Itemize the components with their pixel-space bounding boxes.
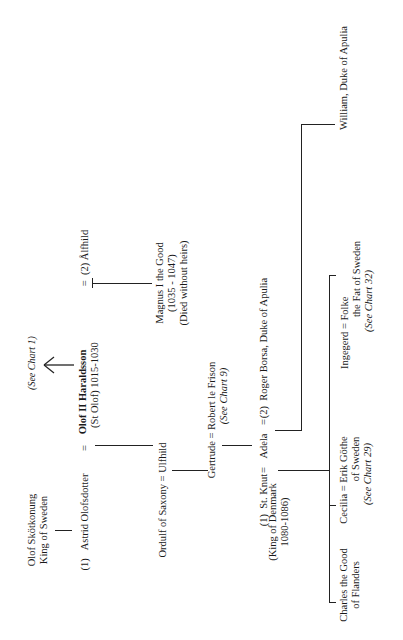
- ingegerd-line1: Ingegerd = Folke: [339, 241, 351, 369]
- st-knut-details: (King of Denmark 1080-1086): [267, 483, 291, 561]
- person-roger-borsa: (2) Roger Borsa, Duke of Apulia: [258, 278, 270, 418]
- person-astrid: (1) Astrid Olofsdotter: [79, 474, 91, 571]
- st-knut-dates: 1080-1086): [279, 483, 291, 561]
- st-knut-title: (King of Denmark: [267, 483, 279, 561]
- genealogy-chart: Olof Skötkonung King of Sweden (1) Astri…: [0, 0, 403, 640]
- arrow-left-icon: [42, 355, 76, 375]
- alfhild-equals: =: [79, 280, 90, 286]
- line-adela-roger-down: [275, 430, 302, 431]
- magnus-note: (Died without heirs): [178, 240, 190, 325]
- person-olof-skotkonung: Olof Skötkonung King of Sweden: [26, 494, 50, 567]
- line-ordulf-to-gertrude: [172, 470, 208, 471]
- olof-ii-name: Olof II Haraldsson: [77, 342, 89, 442]
- olof-skotkonung-name: Olof Skötkonung: [26, 494, 38, 567]
- alfhild-name: Ålfhild: [79, 230, 90, 260]
- line-olof-alfhild-to-magnus: [92, 283, 152, 284]
- line-children-bracket: [329, 275, 330, 603]
- line-knut-adela-to-children: [278, 470, 330, 471]
- marriage-equals-astrid-olof: =: [79, 445, 91, 451]
- astrid-prefix: (1): [79, 558, 90, 570]
- line-olof-alfhild-tick: [92, 278, 93, 288]
- person-charles: Charles the Good of Flanders: [338, 548, 362, 622]
- couple-ordulf-ulfhild: Ordulf of Saxony = Ulfhild: [157, 443, 169, 558]
- olof-skotkonung-title: King of Sweden: [38, 494, 50, 567]
- astrid-name: Astrid Olofsdotter: [79, 474, 90, 551]
- charles-line1: Charles the Good: [338, 548, 350, 622]
- see-chart-1-link[interactable]: (See Chart 1): [26, 336, 38, 390]
- tick-cecilia: [329, 505, 336, 506]
- line-astrid-olof-to-ulfhild: [95, 445, 153, 446]
- alfhild-prefix: (2): [79, 263, 90, 275]
- magnus-dates: (1035 - 1047): [166, 240, 178, 325]
- line-olof-to-astrid: [55, 530, 72, 531]
- olof-ii-subtitle: (St Olof) 1015-1030: [89, 342, 101, 442]
- person-olof-ii: Olof II Haraldsson (St Olof) 1015-1030: [77, 342, 101, 442]
- roger-name: Roger Borsa, Duke of Apulia: [258, 278, 269, 401]
- gertrude-robert-text: Gertrude = Robert le Frison: [206, 362, 218, 479]
- marriage-equals-knut-adela: =: [258, 467, 270, 473]
- person-adela: Adela: [258, 433, 270, 458]
- tick-ingegerd: [329, 275, 336, 276]
- see-chart-29-link[interactable]: (See Chart 29): [362, 436, 374, 523]
- line-gertrude-to-adela: [222, 445, 252, 446]
- person-magnus: Magnus I the Good (1035 - 1047) (Died wi…: [154, 240, 190, 325]
- cecilia-line2: of Sweden: [350, 436, 362, 523]
- person-cecilia: Cecilia = Erik Göthe of Sweden (See Char…: [338, 436, 374, 523]
- roger-prefix: (2): [258, 406, 269, 418]
- line-to-william: [301, 124, 335, 125]
- couple-gertrude-robert: Gertrude = Robert le Frison (See Chart 9…: [206, 362, 230, 479]
- marriage-equals-adela-roger: =: [258, 419, 270, 425]
- cecilia-line1: Cecilia = Erik Göthe: [338, 436, 350, 523]
- person-william: William, Duke of Apulia: [338, 26, 350, 130]
- charles-line2: of Flanders: [350, 548, 362, 622]
- line-roger-to-william-vertical: [301, 124, 302, 431]
- tick-charles: [329, 602, 336, 603]
- ingegerd-line2: the Fat of Sweden: [351, 241, 363, 369]
- magnus-name: Magnus I the Good: [154, 240, 166, 325]
- see-chart-9-link[interactable]: (See Chart 9): [218, 362, 230, 479]
- see-chart-32-link[interactable]: (See Chart 32): [363, 241, 375, 369]
- person-alfhild: = (2) Ålfhild: [79, 230, 91, 286]
- person-ingegerd: Ingegerd = Folke the Fat of Sweden (See …: [339, 241, 375, 369]
